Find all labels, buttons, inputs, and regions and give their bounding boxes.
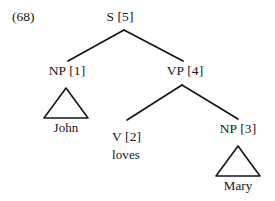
node-label-vp4: VP [4] bbox=[167, 64, 203, 78]
branch-lines bbox=[68, 30, 238, 120]
node-label-s: S [5] bbox=[106, 10, 133, 24]
vp-to-v2 bbox=[127, 85, 182, 120]
terminal-john: John bbox=[54, 121, 79, 134]
s-to-vp4 bbox=[124, 30, 183, 61]
np3-triangle bbox=[216, 146, 260, 176]
np1-triangle bbox=[44, 88, 88, 118]
terminal-mary: Mary bbox=[224, 179, 253, 192]
example-number: (68) bbox=[12, 10, 35, 24]
node-label-np3: NP [3] bbox=[220, 122, 256, 136]
node-label-v2: V [2] bbox=[112, 130, 141, 144]
vp-to-np3 bbox=[182, 85, 238, 119]
node-label-np1: NP [1] bbox=[49, 64, 85, 78]
terminal-loves: loves bbox=[112, 148, 140, 161]
s-to-np1 bbox=[68, 30, 124, 61]
syntax-tree-canvas bbox=[0, 0, 275, 201]
